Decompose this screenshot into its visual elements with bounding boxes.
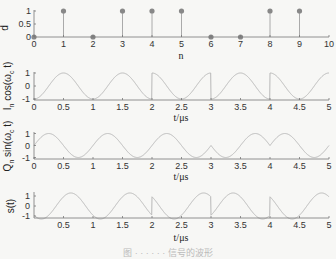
q-sin-plot: Qn sin(ωc t) 00.511.522.533.544.55-101 t… [2,121,332,182]
s-t-plot: s(t) 0.511.522.533.544.55-101 t/μs [5,191,332,243]
svg-text:-1: -1 [22,211,30,221]
svg-text:2.5: 2.5 [175,102,188,112]
svg-text:4: 4 [267,220,272,230]
svg-text:10: 10 [324,39,334,49]
svg-text:3: 3 [208,161,213,171]
svg-text:3: 3 [120,39,125,49]
svg-text:1.5: 1.5 [116,220,129,230]
svg-text:2.5: 2.5 [175,220,188,230]
svg-text:2.5: 2.5 [175,161,188,171]
ylabel-q-sin: Qn sin(ωc t) [2,121,15,172]
svg-text:1.5: 1.5 [116,161,129,171]
svg-text:0: 0 [25,81,30,91]
svg-text:3.5: 3.5 [234,102,247,112]
stem-plot-d: d 00.51 012345678910 n [0,6,334,61]
svg-text:-1: -1 [22,153,30,163]
svg-text:0.5: 0.5 [57,102,70,112]
svg-text:0: 0 [31,39,36,49]
svg-text:3.5: 3.5 [234,161,247,171]
svg-text:1: 1 [90,220,95,230]
svg-text:2: 2 [149,161,154,171]
svg-text:-1: -1 [22,94,30,104]
svg-text:6: 6 [208,39,213,49]
svg-text:7: 7 [238,39,243,49]
svg-text:2: 2 [149,220,154,230]
svg-text:3: 3 [208,220,213,230]
svg-text:1: 1 [90,161,95,171]
svg-text:9: 9 [297,39,302,49]
svg-text:1.5: 1.5 [116,102,129,112]
svg-text:0.5: 0.5 [57,220,70,230]
svg-text:4: 4 [267,161,272,171]
p4-ticks: 0.511.522.533.544.55-101 [22,191,332,230]
p3-ticks: 00.511.522.533.544.55-101 [22,129,332,172]
svg-text:0: 0 [26,32,31,42]
svg-text:8: 8 [267,39,272,49]
svg-text:1: 1 [61,39,66,49]
xlabel-n: n [179,50,184,61]
stem-marker [149,8,154,13]
q-sin-curve [34,134,329,158]
svg-text:5: 5 [179,39,184,49]
svg-text:0.5: 0.5 [18,19,31,29]
svg-text:1: 1 [25,129,30,139]
svg-text:0.5: 0.5 [57,161,70,171]
stem-marker [267,8,272,13]
xlabel-t-2: t/μs [174,112,189,123]
s-t-curve [34,193,329,219]
svg-text:2: 2 [149,102,154,112]
ylabel-i-cos: In cos(ωc t) [2,62,15,111]
stem-marker [179,8,184,13]
stem-marker [297,8,302,13]
ylabel-d: d [0,25,10,31]
svg-text:4: 4 [149,39,154,49]
i-cos-plot: In cos(ωc t) 00.511.522.533.544.55-101 t… [2,62,332,123]
stem-marker [61,8,66,13]
svg-text:0: 0 [31,161,36,171]
i-cos-curve [34,73,329,99]
stem-marker [120,8,125,13]
svg-text:4.5: 4.5 [293,220,306,230]
xlabel-t-3: t/μs [174,171,189,182]
svg-text:0: 0 [25,141,30,151]
svg-text:2: 2 [90,39,95,49]
svg-text:0: 0 [31,102,36,112]
ylabel-s-t: s(t) [5,199,16,213]
svg-text:4.5: 4.5 [293,102,306,112]
svg-text:0: 0 [25,201,30,211]
p1-stems [31,8,302,39]
xlabel-t-4: t/μs [174,232,189,243]
svg-text:4.5: 4.5 [293,161,306,171]
svg-text:3: 3 [208,102,213,112]
svg-text:3.5: 3.5 [234,220,247,230]
svg-text:1: 1 [26,6,31,16]
figure-caption: 图 · · · · · · 信号的波形 [0,246,336,259]
svg-text:5: 5 [326,220,331,230]
svg-text:1: 1 [90,102,95,112]
svg-text:5: 5 [326,161,331,171]
svg-text:1: 1 [25,191,30,201]
svg-text:1: 1 [25,68,30,78]
svg-text:4: 4 [267,102,272,112]
svg-text:5: 5 [326,102,331,112]
